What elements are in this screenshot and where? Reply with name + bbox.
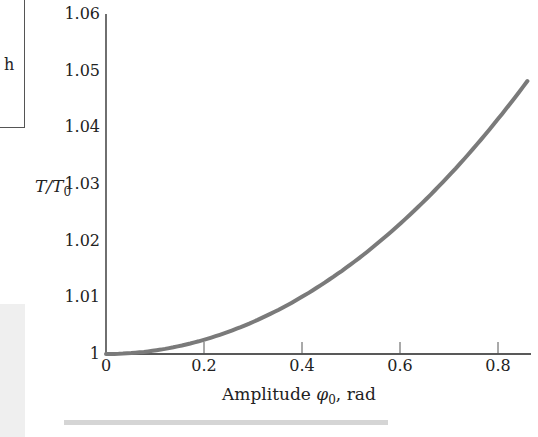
x-tick-marks: [204, 342, 498, 354]
data-line: [106, 81, 527, 354]
divider-rule: [64, 420, 388, 425]
plot-area: [0, 0, 538, 437]
